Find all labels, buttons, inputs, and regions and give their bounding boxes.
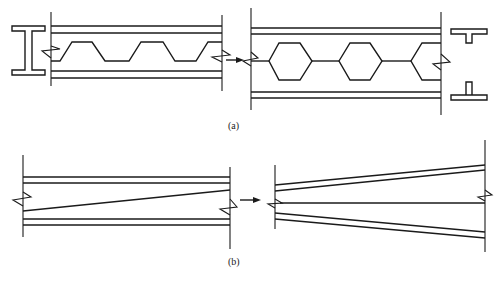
- panel-b-right-beam: [268, 140, 492, 252]
- panel-b-left-beam: [13, 155, 237, 249]
- arrow-a: [226, 57, 244, 63]
- panel-a-right-beam: [243, 8, 487, 115]
- panel-b-caption: (b): [228, 256, 240, 267]
- hexagon-opening: [339, 43, 382, 80]
- figure-canvas: [0, 0, 501, 283]
- tee-section-top-icon: [451, 29, 487, 43]
- panel-a-caption: (a): [228, 120, 239, 131]
- i-section-icon: [12, 26, 45, 75]
- panel-a-left-beam: [12, 12, 230, 91]
- tee-section-bottom-icon: [451, 82, 487, 100]
- arrowhead-icon: [236, 57, 244, 63]
- arrow-b: [240, 197, 261, 203]
- hexagon-opening: [269, 43, 312, 80]
- arrowhead-icon: [253, 197, 261, 203]
